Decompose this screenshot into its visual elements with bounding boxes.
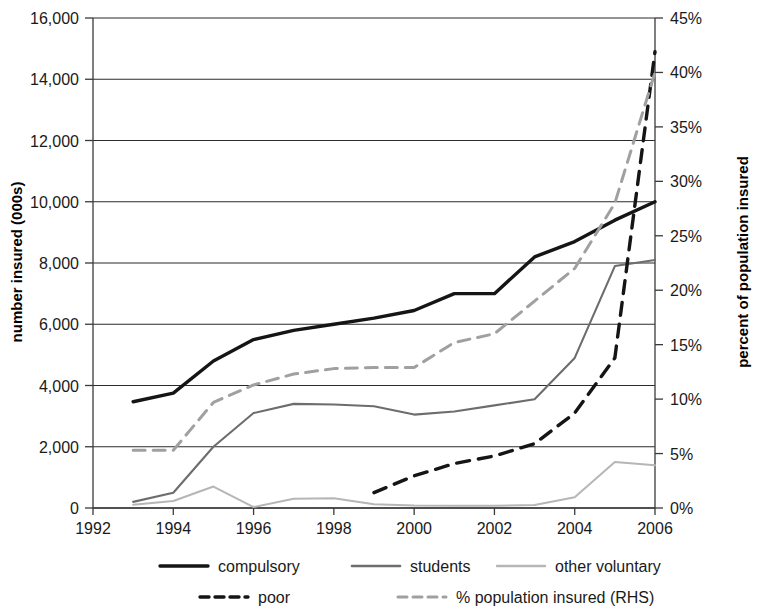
chart-container: 02,0004,0006,0008,00010,00012,00014,0001… [0, 0, 764, 613]
x-tick-label: 2004 [557, 520, 593, 537]
y2-tick-label: 20% [670, 282, 702, 299]
series-line-students [133, 260, 655, 502]
series-line-population-insured-rhs [133, 72, 655, 450]
y-tick-label: 12,000 [30, 133, 79, 150]
y2-axis-title: percent of population insured [734, 156, 751, 368]
legend-item-compulsory: compulsory [160, 558, 300, 575]
y-tick-label: 10,000 [30, 194, 79, 211]
y2-tick-label: 25% [670, 228, 702, 245]
series-line-compulsory [133, 202, 655, 402]
legend-item-other-voluntary: other voluntary [497, 558, 661, 575]
y2-tick-label: 0% [670, 500, 693, 517]
gridlines [93, 18, 655, 508]
x-axis-tick-labels: 19921994199619982000200220042006 [75, 520, 673, 537]
y2-tick-label: 30% [670, 173, 702, 190]
y-tick-label: 6,000 [39, 316, 79, 333]
legend-item-population-insured-rhs: % population insured (RHS) [398, 589, 654, 606]
x-tick-label: 1994 [155, 520, 191, 537]
y2-tick-label: 15% [670, 337, 702, 354]
y-tick-label: 4,000 [39, 378, 79, 395]
chart-legend: compulsorystudentsother voluntarypoor% p… [160, 558, 661, 606]
legend-label: students [410, 558, 470, 575]
y-tick-label: 16,000 [30, 10, 79, 27]
y2-tick-label: 45% [670, 10, 702, 27]
y-axis-tick-labels: 02,0004,0006,0008,00010,00012,00014,0001… [30, 10, 79, 517]
y-tick-label: 0 [70, 500, 79, 517]
x-tick-label: 1992 [75, 520, 111, 537]
y2-tick-label: 40% [670, 64, 702, 81]
y2-axis-tick-labels: 0%5%10%15%20%25%30%35%40%45% [670, 10, 702, 517]
legend-label: poor [258, 589, 291, 606]
y-tick-label: 14,000 [30, 71, 79, 88]
legend-label: % population insured (RHS) [456, 589, 654, 606]
data-series-group [133, 52, 655, 507]
y2-tick-label: 5% [670, 446, 693, 463]
x-tick-label: 1996 [236, 520, 272, 537]
y-tick-label: 8,000 [39, 255, 79, 272]
y-tick-label: 2,000 [39, 439, 79, 456]
legend-label: other voluntary [555, 558, 661, 575]
x-tick-label: 1998 [316, 520, 352, 537]
line-chart: 02,0004,0006,0008,00010,00012,00014,0001… [0, 0, 764, 613]
y2-tick-label: 35% [670, 119, 702, 136]
legend-label: compulsory [218, 558, 300, 575]
x-tick-label: 2006 [637, 520, 673, 537]
x-tick-label: 2000 [396, 520, 432, 537]
legend-item-students: students [352, 558, 470, 575]
x-tick-label: 2002 [477, 520, 513, 537]
legend-item-poor: poor [200, 589, 291, 606]
y-axis-title: number insured (000s) [8, 182, 25, 343]
y2-tick-label: 10% [670, 391, 702, 408]
